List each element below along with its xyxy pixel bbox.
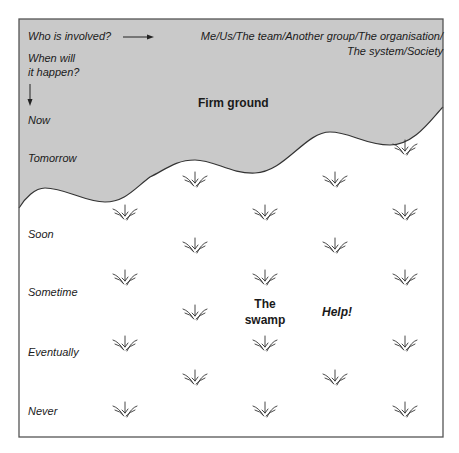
who-label: Who is involved?: [28, 30, 111, 43]
when-label-line2: it happen?: [28, 66, 79, 79]
help-label: Help!: [322, 306, 352, 319]
time-label-soon: Soon: [28, 228, 54, 241]
who-values-line1: Me/Us/The team/Another group/The organis…: [201, 30, 443, 43]
swamp-diagram: Who is involved? Me/Us/The team/Another …: [0, 0, 459, 453]
who-values-line2: The system/Society: [347, 45, 443, 58]
swamp-label-line2: swamp: [240, 314, 290, 327]
time-label-now: Now: [28, 114, 50, 127]
time-label-sometime: Sometime: [28, 286, 78, 299]
when-label-line1: When will: [28, 52, 75, 65]
swamp-label-line1: The: [240, 298, 290, 311]
time-label-tomorrow: Tomorrow: [28, 152, 77, 165]
time-label-eventually: Eventually: [28, 346, 79, 359]
time-label-never: Never: [28, 405, 57, 418]
firm-ground-label: Firm ground: [198, 97, 269, 110]
